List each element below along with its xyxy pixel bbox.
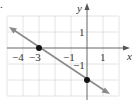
coordinate-graph: −4 −3 −1 1 1 −1 x y . bbox=[0, 0, 137, 106]
tick-label-neg4: −4 bbox=[12, 51, 24, 63]
y-axis-arrow-icon bbox=[85, 3, 90, 10]
plotted-line bbox=[9, 27, 110, 94]
line-arrow-start-icon bbox=[9, 27, 17, 34]
tick-label-1-y: 1 bbox=[79, 26, 85, 38]
tick-label-1-x: 1 bbox=[100, 51, 106, 63]
y-axis-label: y bbox=[76, 2, 82, 14]
item-marker: . bbox=[0, 0, 3, 10]
x-axis-label: x bbox=[126, 50, 132, 62]
point-y-intercept bbox=[84, 77, 90, 83]
tick-label-neg1-y: −1 bbox=[73, 59, 85, 71]
tick-label-neg3: −3 bbox=[29, 51, 41, 63]
